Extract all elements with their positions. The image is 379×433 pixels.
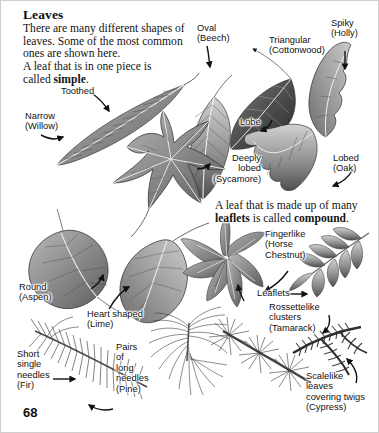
label-lobed-oak: Lobed (Oak) (333, 153, 359, 174)
label-spiky-holly: Spiky (Holly) (331, 18, 358, 39)
label-triangular-cottonwood: Triangular (Cottonwood) (269, 35, 325, 56)
intro-p2-end: . (86, 73, 89, 86)
leaves-page: Leaves There are many different shapes o… (0, 0, 379, 433)
leaflets-term: leaflets (215, 212, 250, 225)
arrow-narrow-willow (41, 135, 63, 139)
label-scalelike-cypress: Scalelike leaves covering twigs (Cypress… (306, 371, 365, 413)
label-narrow-willow: Narrow (Willow) (25, 111, 58, 132)
intro-paragraph-1: There are many different shapes of leave… (23, 23, 203, 61)
label-rossettelike-tamarack: Rossettelike clusters (Tamarack) (269, 302, 320, 333)
label-toothed: Toothed (61, 86, 94, 96)
label-short-single-needles-fir: Short single needles (Fir) (17, 349, 50, 391)
label-oval-beech: Oval (Beech) (197, 23, 230, 44)
compound-end: . (346, 212, 349, 225)
compound-note: A leaf that is made up of manyleaflets i… (215, 199, 375, 225)
label-leaflets: Leaflets (257, 288, 290, 298)
arrow-oval-beech (207, 46, 210, 67)
compound-line-1: A leaf that is made up of many (215, 199, 358, 212)
compound-term: compound (294, 212, 346, 225)
page-number: 68 (23, 405, 37, 420)
pine-branch-art (149, 307, 229, 395)
arrow-toothed (93, 94, 109, 111)
label-lobe: Lobe (240, 117, 261, 127)
simple-term: simple (54, 73, 86, 86)
arrow-pine (89, 405, 113, 410)
label-round-aspen: Round (Aspen) (19, 282, 52, 303)
label-pairs-long-needles-pine: Pairs of long needles (Pine) (116, 342, 149, 394)
label-deeply-lobed-sycamore: Deeply lobed (Sycamore) (197, 153, 261, 184)
label-heart-shaped-lime: Heart shaped (Lime) (87, 309, 143, 330)
intro-paragraph-2: A leaf that is in one piece is called si… (23, 61, 203, 86)
label-fingerlike-horse-chestnut: Fingerlike (Horse Chestnut) (265, 229, 305, 260)
page-title: Leaves (23, 7, 63, 23)
compound-mid: is called (250, 212, 294, 225)
